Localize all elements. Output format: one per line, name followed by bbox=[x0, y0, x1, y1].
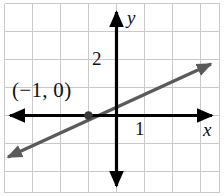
x-axis-tick-label-1: 1 bbox=[135, 119, 145, 138]
graph-figure: y x 2 1 (−1, 0) bbox=[0, 0, 224, 196]
point-coordinate-label: (−1, 0) bbox=[12, 80, 71, 101]
y-axis-tick-label-2: 2 bbox=[92, 49, 102, 68]
x-axis-label: x bbox=[203, 120, 211, 139]
y-axis-label: y bbox=[127, 8, 135, 27]
point-marker bbox=[84, 111, 93, 120]
